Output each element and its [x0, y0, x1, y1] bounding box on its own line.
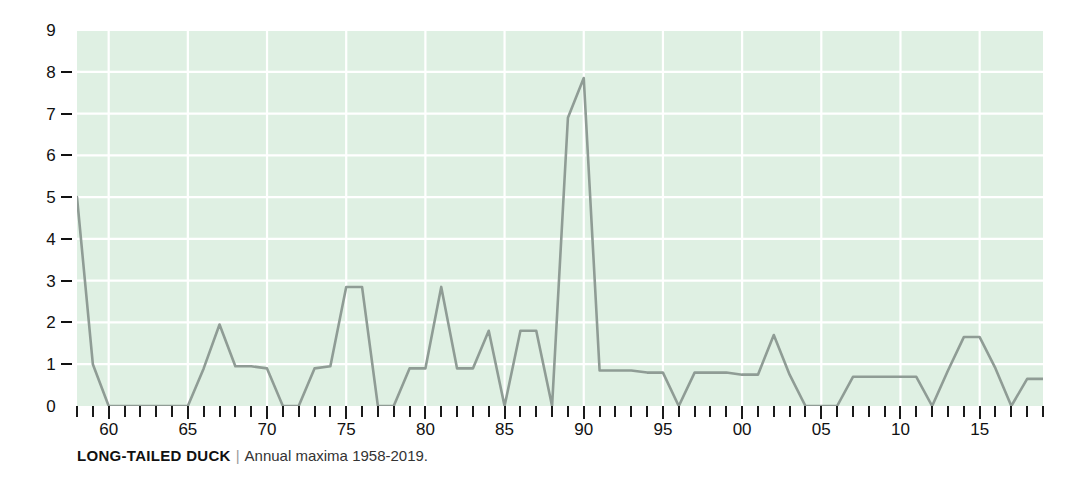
x-tick-mark-1997: [694, 406, 696, 417]
x-tick-mark-1999: [725, 406, 727, 417]
x-tick-mark-2009: [884, 406, 886, 417]
x-tick-label-85: 85: [495, 421, 514, 438]
x-tick-mark-1969: [250, 406, 252, 417]
x-tick-mark-2014: [963, 406, 965, 417]
y-tick-label-2: 2: [46, 314, 56, 331]
x-tick-mark-2005: [820, 406, 822, 419]
x-tick-mark-1973: [314, 406, 316, 417]
x-tick-mark-1995: [662, 406, 664, 419]
y-tick-mark-4: [61, 238, 72, 240]
x-tick-mark-1993: [630, 406, 632, 417]
x-tick-mark-2007: [852, 406, 854, 417]
x-tick-label-75: 75: [337, 421, 356, 438]
caption-separator: |: [231, 447, 245, 464]
x-tick-mark-2019: [1042, 406, 1044, 417]
x-tick-mark-2011: [915, 406, 917, 417]
x-tick-mark-1959: [92, 406, 94, 417]
x-tick-mark-1975: [345, 406, 347, 419]
x-tick-label-10: 10: [891, 421, 910, 438]
x-tick-mark-1979: [409, 406, 411, 417]
x-tick-mark-2012: [931, 406, 933, 417]
x-tick-mark-1994: [646, 406, 648, 417]
y-tick-mark-8: [61, 71, 72, 73]
x-tick-label-70: 70: [258, 421, 277, 438]
x-tick-mark-1964: [171, 406, 173, 417]
y-tick-mark-7: [61, 113, 72, 115]
x-tick-mark-1966: [203, 406, 205, 417]
y-tick-mark-2: [61, 321, 72, 323]
x-tick-mark-2017: [1010, 406, 1012, 417]
x-tick-label-65: 65: [178, 421, 197, 438]
caption-title: LONG-TAILED DUCK: [77, 447, 231, 464]
x-tick-mark-1968: [234, 406, 236, 417]
y-tick-label-8: 8: [46, 63, 56, 80]
x-tick-mark-1960: [108, 406, 110, 419]
x-tick-mark-1981: [440, 406, 442, 417]
x-tick-mark-1991: [599, 406, 601, 417]
x-tick-label-15: 15: [970, 421, 989, 438]
x-tick-mark-2001: [757, 406, 759, 417]
y-tick-mark-1: [61, 363, 72, 365]
x-tick-mark-2008: [868, 406, 870, 417]
y-tick-label-5: 5: [46, 189, 56, 206]
x-tick-mark-1958: [76, 406, 78, 417]
x-tick-label-00: 00: [733, 421, 752, 438]
x-tick-mark-1987: [535, 406, 537, 417]
x-tick-mark-1992: [614, 406, 616, 417]
chart-caption: LONG-TAILED DUCK|Annual maxima 1958-2019…: [77, 446, 1037, 466]
x-tick-label-05: 05: [812, 421, 831, 438]
x-tick-mark-1977: [377, 406, 379, 417]
x-tick-mark-2010: [899, 406, 901, 419]
x-tick-mark-1978: [393, 406, 395, 417]
y-tick-label-7: 7: [46, 105, 56, 122]
x-tick-mark-1967: [219, 406, 221, 417]
x-tick-mark-1984: [488, 406, 490, 417]
x-tick-mark-2018: [1026, 406, 1028, 417]
x-tick-mark-1990: [583, 406, 585, 419]
x-tick-mark-1972: [298, 406, 300, 417]
y-tick-label-3: 3: [46, 272, 56, 289]
x-tick-mark-2004: [804, 406, 806, 417]
plot-area: [77, 30, 1043, 406]
line-chart-svg: [77, 30, 1043, 406]
data-series-line: [77, 78, 1043, 406]
gridlines: [77, 30, 1043, 406]
x-tick-mark-1989: [567, 406, 569, 417]
x-axis: 606570758085909500051015: [77, 406, 1043, 442]
x-tick-label-95: 95: [653, 421, 672, 438]
x-tick-label-60: 60: [99, 421, 118, 438]
x-tick-mark-1982: [456, 406, 458, 417]
x-tick-mark-1962: [139, 406, 141, 417]
y-tick-mark-3: [61, 280, 72, 282]
x-tick-label-80: 80: [416, 421, 435, 438]
y-tick-label-6: 6: [46, 147, 56, 164]
y-axis: 0123456789: [38, 0, 78, 486]
x-tick-mark-1983: [472, 406, 474, 417]
x-tick-label-90: 90: [574, 421, 593, 438]
x-tick-mark-2003: [789, 406, 791, 417]
x-tick-mark-1980: [424, 406, 426, 419]
x-tick-mark-2015: [979, 406, 981, 419]
x-tick-mark-1963: [155, 406, 157, 417]
x-tick-mark-2016: [994, 406, 996, 417]
x-tick-mark-2000: [741, 406, 743, 419]
x-tick-mark-1976: [361, 406, 363, 417]
x-tick-mark-1988: [551, 406, 553, 417]
y-tick-label-9: 9: [46, 22, 56, 39]
y-tick-label-0: 0: [46, 398, 56, 415]
y-tick-mark-6: [61, 154, 72, 156]
x-tick-mark-2006: [836, 406, 838, 417]
x-tick-mark-1961: [124, 406, 126, 417]
chart-figure: 0123456789 606570758085909500051015 LONG…: [0, 0, 1078, 486]
x-tick-mark-1985: [504, 406, 506, 419]
x-tick-mark-1965: [187, 406, 189, 419]
x-tick-mark-2013: [947, 406, 949, 417]
y-tick-mark-5: [61, 196, 72, 198]
y-tick-label-4: 4: [46, 230, 56, 247]
x-tick-mark-1986: [519, 406, 521, 417]
caption-subtitle: Annual maxima 1958-2019.: [245, 447, 428, 464]
x-tick-mark-1974: [329, 406, 331, 417]
x-tick-mark-1996: [678, 406, 680, 417]
x-tick-mark-1998: [709, 406, 711, 417]
x-tick-mark-1971: [282, 406, 284, 417]
